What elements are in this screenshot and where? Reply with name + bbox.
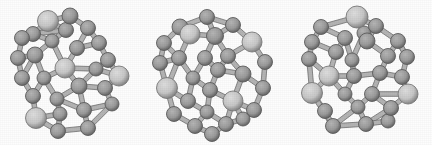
cluster-structure-3-panel <box>288 0 432 145</box>
atom-sphere-dark <box>77 103 92 118</box>
atom-sphere-dark <box>345 53 359 67</box>
atom-sphere-dark <box>314 20 329 35</box>
atom-sphere-light <box>398 84 418 104</box>
atom-sphere-dark <box>256 81 271 96</box>
atom-sphere-dark <box>318 104 333 119</box>
atom-sphere-light <box>346 6 368 28</box>
cluster-structure-1-svg <box>0 0 144 145</box>
atom-sphere-light <box>242 32 262 52</box>
atom-sphere-dark <box>71 78 87 94</box>
cluster-structure-2-svg <box>144 0 288 145</box>
atom-sphere-dark <box>226 18 241 33</box>
atom-sphere-dark <box>81 21 96 36</box>
atom-sphere-light <box>302 83 323 104</box>
atom-sphere-dark <box>207 28 224 45</box>
atom-sphere-dark <box>391 34 406 49</box>
atom-sphere-dark <box>302 52 317 67</box>
atom-sphere-dark <box>26 89 41 104</box>
atom-sphere-dark <box>338 31 353 46</box>
atom-sphere-dark <box>247 103 262 118</box>
atom-sphere-dark <box>198 51 213 66</box>
atom-sphere-dark <box>89 62 103 76</box>
atom-sphere-dark <box>373 66 388 81</box>
atom-sphere-dark <box>70 41 85 56</box>
atom-sphere-dark <box>45 34 59 48</box>
atom-sphere-dark <box>365 87 380 102</box>
atom-sphere-dark <box>381 49 396 64</box>
bond <box>338 122 360 128</box>
atom-sphere-dark <box>101 53 116 68</box>
atom-sphere-dark <box>186 71 200 85</box>
atom-sphere-dark <box>37 71 51 85</box>
atom-sphere-light <box>109 66 129 86</box>
atom-sphere-dark <box>384 101 399 116</box>
atom-sphere-light <box>319 66 339 86</box>
atom-sphere-dark <box>167 107 182 122</box>
atom-sphere-light <box>180 24 200 44</box>
atom-sphere-light <box>55 58 75 78</box>
atom-sphere-dark <box>15 31 30 46</box>
atom-sphere-dark <box>181 94 196 109</box>
atom-layer <box>11 8 130 139</box>
atom-sphere-light <box>223 91 243 111</box>
atom-sphere-dark <box>359 33 375 49</box>
atom-sphere-dark <box>188 119 203 134</box>
atom-sphere-dark <box>62 8 78 24</box>
atom-sphere-dark <box>200 10 215 25</box>
atom-sphere-dark <box>153 56 168 71</box>
atom-sphere-dark <box>172 51 187 66</box>
cluster-structure-2-panel <box>144 0 288 145</box>
atom-sphere-dark <box>11 51 26 66</box>
atom-sphere-light <box>26 108 47 129</box>
atom-sphere-dark <box>98 81 113 96</box>
molecular-structures-figure <box>0 0 432 145</box>
atom-sphere-dark <box>351 100 365 114</box>
atom-sphere-dark <box>92 36 107 51</box>
atom-sphere-dark <box>157 36 172 51</box>
atom-sphere-dark <box>338 87 352 101</box>
atom-sphere-dark <box>221 49 236 64</box>
atom-sphere-dark <box>359 117 374 132</box>
atom-sphere-dark <box>381 114 395 128</box>
atom-sphere-dark <box>326 119 341 134</box>
atom-sphere-dark <box>81 121 96 136</box>
atom-sphere-dark <box>219 117 234 132</box>
atom-sphere-dark <box>50 92 64 106</box>
atom-sphere-dark <box>235 66 251 82</box>
atom-sphere-dark <box>51 124 66 139</box>
bond <box>377 92 400 97</box>
atom-sphere-dark <box>203 83 218 98</box>
atom-sphere-dark <box>105 97 119 111</box>
atom-sphere-dark <box>400 50 415 65</box>
atom-sphere-light <box>157 78 178 99</box>
atom-sphere-dark <box>211 63 226 78</box>
atom-sphere-dark <box>305 35 320 50</box>
atom-sphere-dark <box>15 71 30 86</box>
bond <box>63 126 83 133</box>
atom-sphere-dark <box>53 107 67 121</box>
atom-sphere-dark <box>258 55 273 70</box>
atom-sphere-dark <box>347 69 362 84</box>
cluster-structure-3-svg <box>288 0 432 145</box>
atom-sphere-dark <box>200 105 214 119</box>
atom-sphere-dark <box>59 23 74 38</box>
atom-sphere-dark <box>27 47 43 63</box>
atom-sphere-light <box>38 11 59 32</box>
cluster-structure-1-panel <box>0 0 144 145</box>
atom-sphere-dark <box>369 19 384 34</box>
atom-sphere-dark <box>329 45 344 60</box>
atom-sphere-dark <box>395 70 410 85</box>
atom-sphere-dark <box>205 127 220 142</box>
